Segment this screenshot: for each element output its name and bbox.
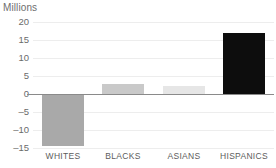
y-tick-label: –15 <box>1 143 29 153</box>
gridline <box>33 22 274 23</box>
y-tick-label: –5 <box>1 107 29 117</box>
x-label-blacks: BLACKS <box>93 151 153 161</box>
y-tick-label: 15 <box>1 35 29 45</box>
x-label-asians: ASIANS <box>154 151 214 161</box>
gridline <box>33 148 274 149</box>
x-label-whites: WHITES <box>33 151 93 161</box>
chart-title: Millions <box>3 2 37 13</box>
y-axis-tick-labels: 20151050–5–10–15 <box>0 22 29 148</box>
y-tick-label: –10 <box>1 125 29 135</box>
zero-axis-line <box>27 94 274 95</box>
bar-chart: Millions 20151050–5–10–15 WHITESBLACKSAS… <box>0 0 276 168</box>
x-axis-category-labels: WHITESBLACKSASIANSHISPANICS <box>33 151 274 165</box>
bar-asians <box>163 86 205 94</box>
y-tick-label: 5 <box>1 71 29 81</box>
y-tick-label: 20 <box>1 17 29 27</box>
bar-whites <box>42 94 84 146</box>
y-tick-label: 0 <box>1 89 29 99</box>
plot-area <box>33 22 274 148</box>
bar-hispanics <box>223 33 265 94</box>
y-tick-label: 10 <box>1 53 29 63</box>
bar-blacks <box>102 84 144 94</box>
x-label-hispanics: HISPANICS <box>214 151 274 161</box>
